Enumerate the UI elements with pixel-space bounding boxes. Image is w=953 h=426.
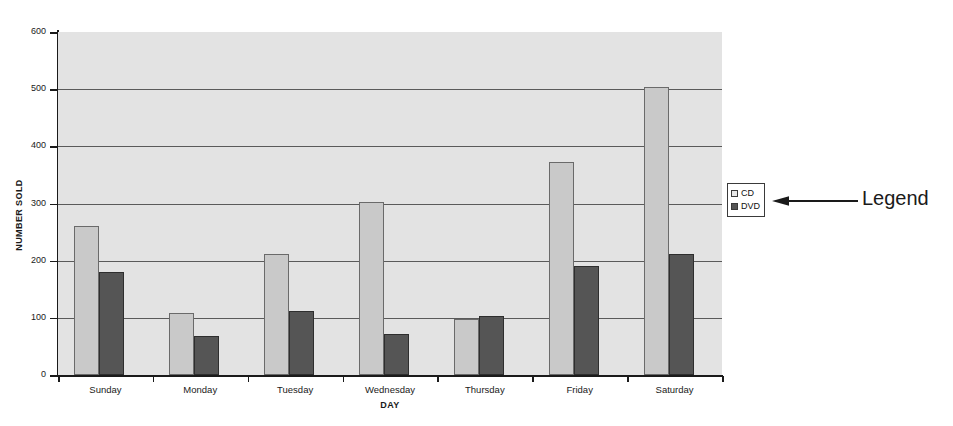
gridline <box>58 146 722 147</box>
gridline <box>58 261 722 262</box>
bar-sunday-dvd <box>99 272 124 375</box>
bar-tuesday-cd <box>264 254 289 375</box>
x-tick-label-friday: Friday <box>532 384 627 395</box>
y-tick-label: 100 <box>6 313 46 322</box>
y-tick-mark <box>50 89 58 91</box>
x-tick-mark <box>58 376 60 382</box>
x-axis-line <box>57 375 723 377</box>
bar-wednesday-cd <box>359 202 384 375</box>
y-tick-mark <box>50 32 58 34</box>
left-arrow-icon <box>772 195 858 207</box>
plot-area <box>58 32 722 375</box>
bar-wednesday-dvd <box>384 334 409 375</box>
y-tick-label: 200 <box>6 256 46 265</box>
bar-friday-cd <box>549 162 574 375</box>
gridline <box>58 204 722 205</box>
bar-saturday-dvd <box>669 254 694 375</box>
chart-legend: CD DVD <box>727 183 765 217</box>
legend-swatch-dvd-icon <box>731 203 738 210</box>
legend-label-dvd: DVD <box>741 202 760 211</box>
y-tick-label: 0 <box>6 370 46 379</box>
x-tick-label-wednesday: Wednesday <box>343 384 438 395</box>
legend-item-dvd: DVD <box>731 200 760 213</box>
annotation-label-legend: Legend <box>862 186 929 210</box>
y-tick-mark <box>50 375 58 377</box>
x-tick-mark <box>153 376 155 382</box>
gridline <box>58 318 722 319</box>
x-tick-label-sunday: Sunday <box>58 384 153 395</box>
bar-tuesday-dvd <box>289 311 314 375</box>
x-tick-mark <box>437 376 439 382</box>
y-tick-mark <box>50 204 58 206</box>
bar-thursday-dvd <box>479 316 504 375</box>
legend-item-cd: CD <box>731 187 760 200</box>
y-tick-mark <box>50 146 58 148</box>
bar-sunday-cd <box>74 226 99 375</box>
x-tick-label-thursday: Thursday <box>437 384 532 395</box>
x-tick-mark <box>343 376 345 382</box>
y-tick-mark <box>50 261 58 263</box>
x-tick-label-monday: Monday <box>153 384 248 395</box>
y-axis-title: NUMBER SOLD <box>10 140 28 290</box>
bar-friday-dvd <box>574 266 599 375</box>
bar-monday-cd <box>169 313 194 375</box>
x-tick-mark <box>248 376 250 382</box>
legend-label-cd: CD <box>741 189 754 198</box>
y-tick-mark <box>50 318 58 320</box>
bar-thursday-cd <box>454 319 479 375</box>
x-tick-mark <box>532 376 534 382</box>
bar-saturday-cd <box>644 87 669 375</box>
y-tick-label: 400 <box>6 141 46 150</box>
bar-monday-dvd <box>194 336 219 375</box>
gridline <box>58 89 722 90</box>
x-axis-title: DAY <box>58 400 722 410</box>
chart-root: NUMBER SOLD 0100200300400500600 SundayMo… <box>0 0 953 426</box>
y-tick-label: 600 <box>6 27 46 36</box>
x-tick-mark <box>627 376 629 382</box>
legend-swatch-cd-icon <box>731 190 738 197</box>
y-tick-label: 500 <box>6 84 46 93</box>
x-tick-mark <box>722 376 724 382</box>
x-tick-label-tuesday: Tuesday <box>248 384 343 395</box>
y-tick-label: 300 <box>6 199 46 208</box>
x-tick-label-saturday: Saturday <box>627 384 722 395</box>
